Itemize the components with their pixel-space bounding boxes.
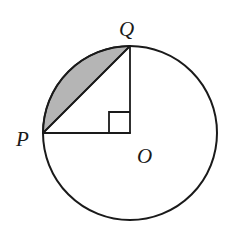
vertex-label-P: P [15,127,29,151]
vertex-label-Q: Q [119,17,134,41]
circle-segment-diagram: P Q O [0,0,233,229]
figure-background [0,0,233,229]
geometry-figure-container: P Q O [0,0,233,229]
vertex-label-O: O [137,144,152,168]
